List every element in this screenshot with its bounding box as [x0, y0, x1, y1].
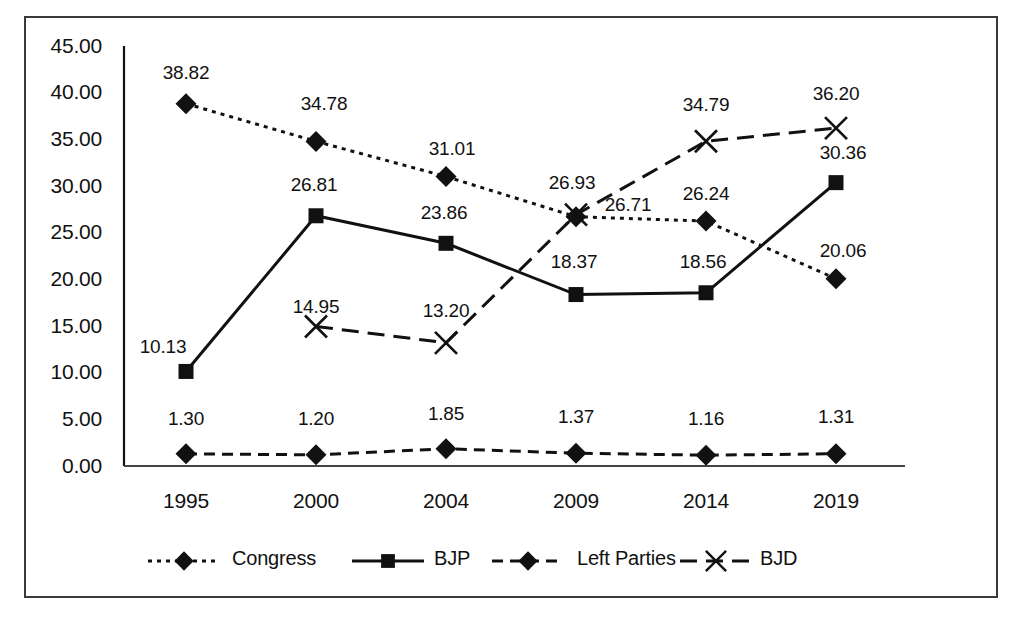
- marker-diamond: [306, 131, 327, 152]
- marker-cross: [435, 332, 457, 354]
- y-axis-tick-label: 15.00: [0, 314, 102, 338]
- marker-diamond: [436, 438, 457, 459]
- marker-diamond: [566, 443, 587, 464]
- data-point-label: 1.37: [516, 406, 636, 428]
- marker-diamond: [518, 551, 537, 570]
- y-axis-tick-label: 20.00: [0, 267, 102, 291]
- data-point-label: 31.01: [392, 138, 512, 160]
- x-axis-tick-label: 2019: [776, 489, 896, 513]
- marker-diamond: [174, 551, 193, 570]
- marker-diamond: [436, 166, 457, 187]
- marker-diamond: [826, 443, 847, 464]
- y-axis-tick-label: 10.00: [0, 360, 102, 384]
- legend-item-label[interactable]: BJD: [760, 547, 797, 570]
- data-point-label: 20.06: [783, 240, 903, 262]
- marker-diamond: [696, 211, 717, 232]
- marker-square: [179, 364, 194, 379]
- marker-square: [381, 554, 395, 568]
- x-axis-tick-label: 2014: [646, 489, 766, 513]
- data-point-label: 26.93: [512, 172, 632, 194]
- marker-diamond: [176, 93, 197, 114]
- y-axis-tick-label: 5.00: [0, 407, 102, 431]
- y-axis-tick-label: 40.00: [0, 80, 102, 104]
- y-axis-tick-label: 25.00: [0, 220, 102, 244]
- data-point-label: 10.13: [103, 336, 223, 358]
- y-axis-tick-label: 35.00: [0, 127, 102, 151]
- legend-item-label[interactable]: Congress: [232, 547, 316, 570]
- marker-square: [309, 208, 324, 223]
- marker-square: [699, 285, 714, 300]
- data-point-label: 26.81: [254, 174, 374, 196]
- marker-diamond: [826, 268, 847, 289]
- data-point-label: 34.79: [646, 94, 766, 116]
- series-left-parties: [176, 438, 847, 465]
- marker-square: [439, 236, 454, 251]
- data-point-label: 1.16: [646, 408, 766, 430]
- marker-diamond: [306, 444, 327, 465]
- legend-item-label[interactable]: Left Parties: [577, 547, 676, 570]
- data-point-label: 38.82: [126, 62, 246, 84]
- data-point-label: 14.95: [256, 296, 376, 318]
- legend-item-label[interactable]: BJP: [434, 547, 470, 570]
- series-line: [186, 449, 836, 455]
- data-point-label: 26.24: [646, 183, 766, 205]
- marker-diamond: [696, 445, 717, 466]
- data-point-label: 30.36: [783, 142, 903, 164]
- data-point-label: 18.37: [514, 251, 634, 273]
- data-point-label: 36.20: [776, 83, 896, 105]
- data-point-label: 1.85: [386, 403, 506, 425]
- data-point-label: 13.20: [386, 300, 506, 322]
- y-axis-tick-label: 45.00: [0, 34, 102, 58]
- data-point-label: 1.20: [256, 408, 376, 430]
- data-point-label: 23.86: [384, 202, 504, 224]
- x-axis-tick-label: 2004: [386, 489, 506, 513]
- x-axis-tick-label: 1995: [126, 489, 246, 513]
- marker-square: [569, 287, 584, 302]
- y-axis-tick-label: 0.00: [0, 454, 102, 478]
- data-point-label: 1.30: [126, 408, 246, 430]
- data-point-label: 18.56: [643, 251, 763, 273]
- x-axis-tick-label: 2009: [516, 489, 636, 513]
- x-axis-tick-label: 2000: [256, 489, 376, 513]
- marker-square: [829, 175, 844, 190]
- data-point-label: 1.31: [776, 406, 896, 428]
- marker-diamond: [176, 443, 197, 464]
- data-point-label: 34.78: [264, 93, 384, 115]
- chart-container: 45.0040.0035.0030.0025.0020.0015.0010.00…: [0, 0, 1024, 621]
- y-axis-tick-label: 30.00: [0, 174, 102, 198]
